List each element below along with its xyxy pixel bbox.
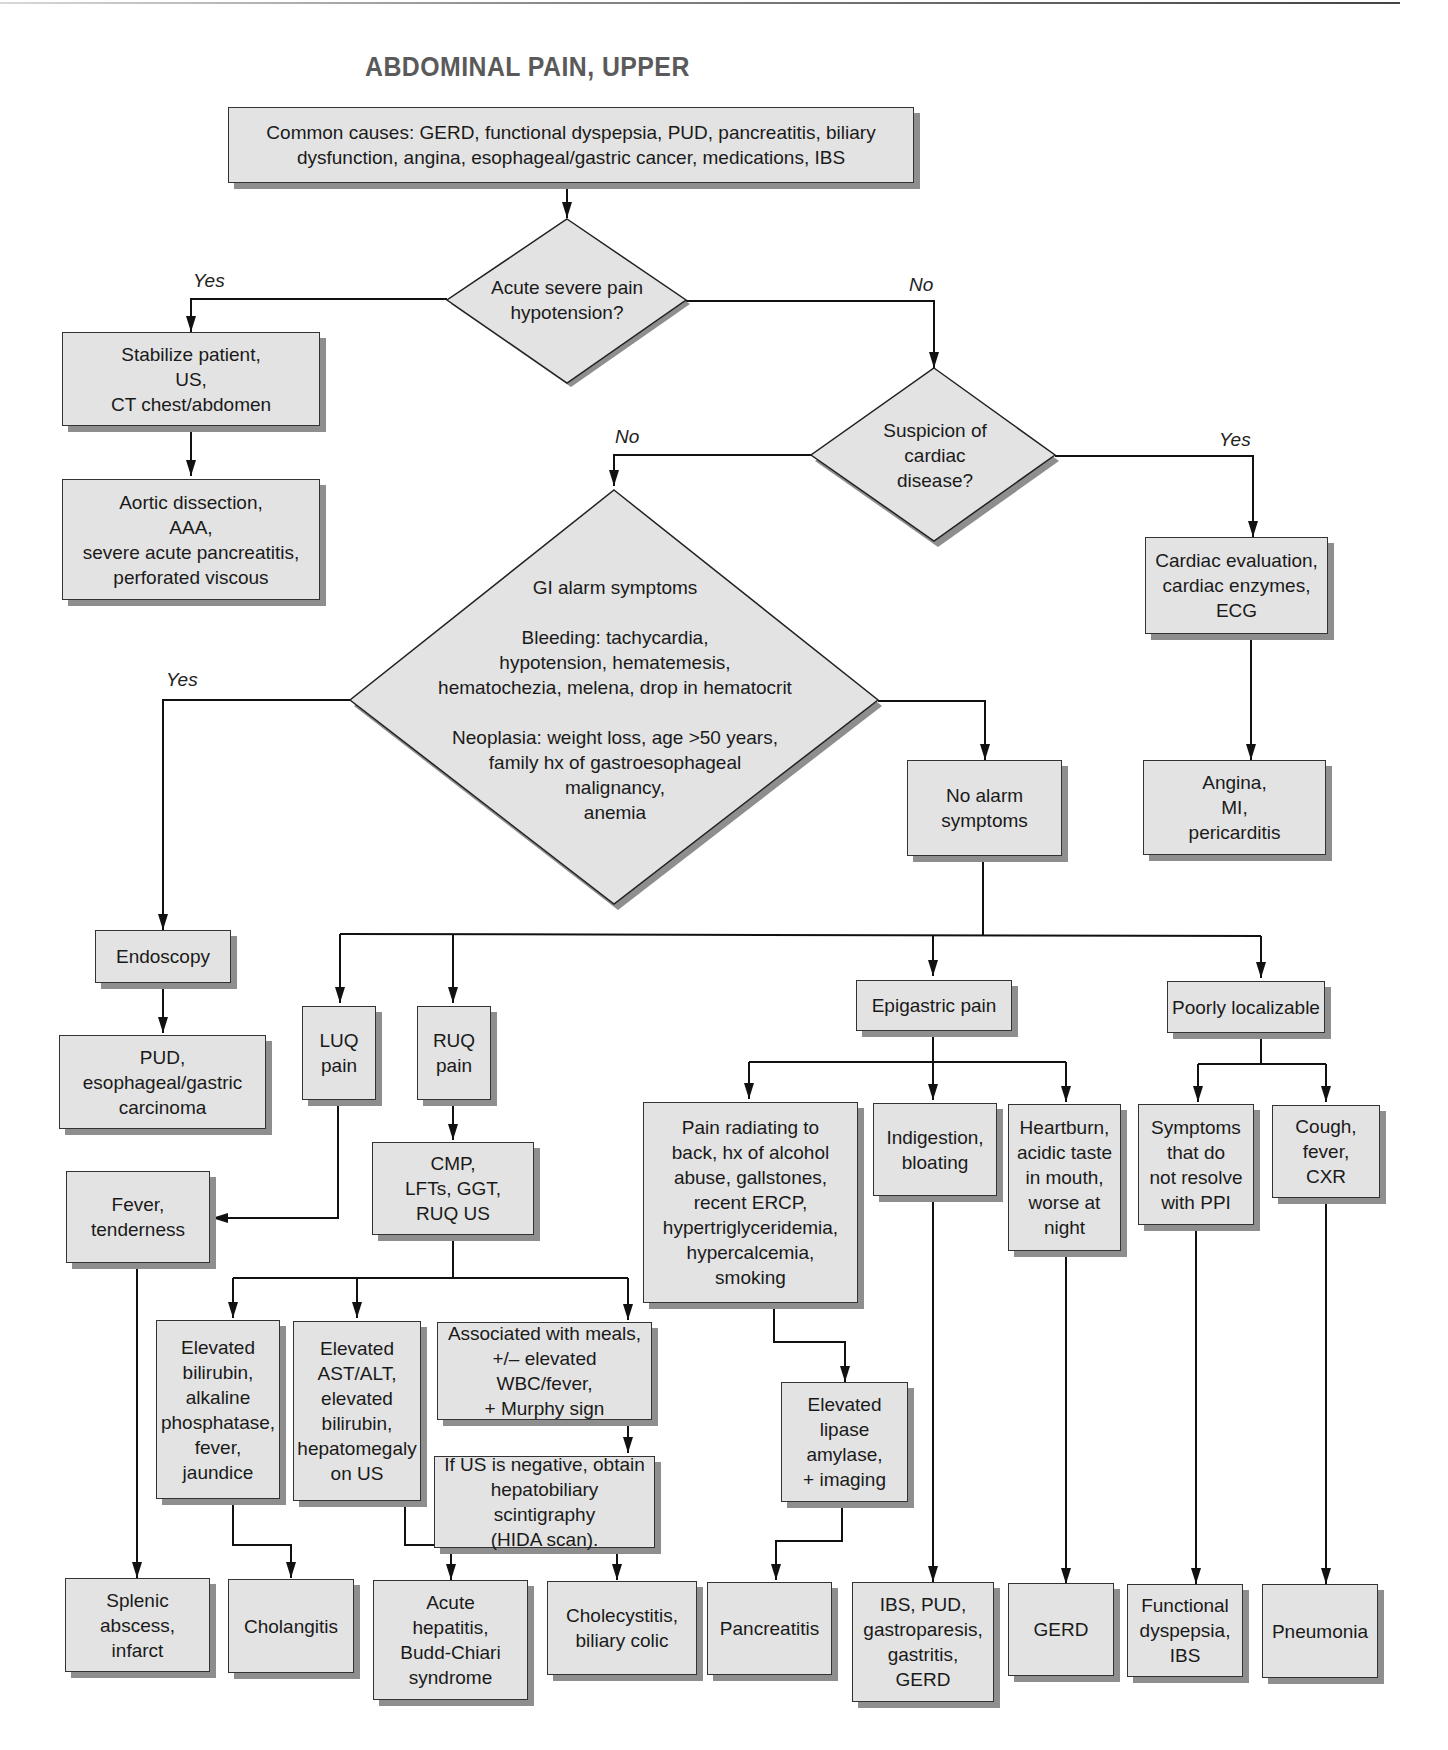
node-associated-with-meals: Associated with meals, +/– elevated WBC/… bbox=[437, 1322, 652, 1420]
node-cholangitis: Cholangitis bbox=[228, 1579, 354, 1673]
node-aortic-dissection: Aortic dissection, AAA, severe acute pan… bbox=[62, 479, 320, 600]
edge-label-acute-yes: Yes bbox=[193, 270, 225, 292]
node-heartburn: Heartburn, acidic taste in mouth, worse … bbox=[1008, 1104, 1121, 1251]
decision-gi-alarm-symptoms: GI alarm symptoms Bleeding: tachycardia,… bbox=[400, 570, 830, 830]
node-common-causes: Common causes: GERD, functional dyspepsi… bbox=[228, 107, 914, 183]
node-cardiac-evaluation: Cardiac evaluation, cardiac enzymes, ECG bbox=[1145, 537, 1328, 634]
node-elevated-bilirubin: Elevated bilirubin, alkaline phosphatase… bbox=[156, 1320, 280, 1499]
node-ruq-pain: RUQ pain bbox=[417, 1006, 491, 1100]
node-poorly-localizable: Poorly localizable bbox=[1167, 981, 1325, 1033]
node-no-alarm-symptoms: No alarm symptoms bbox=[907, 760, 1062, 856]
decision-suspicion-cardiac: Suspicion of cardiac disease? bbox=[840, 415, 1030, 495]
edge-label-acute-no: No bbox=[909, 274, 933, 296]
node-elevated-lipase: Elevated lipase amylase, + imaging bbox=[781, 1382, 908, 1502]
node-symptoms-ppi: Symptoms that do not resolve with PPI bbox=[1138, 1104, 1254, 1225]
edge-label-cardiac-yes: Yes bbox=[1219, 429, 1251, 451]
edge-label-cardiac-no: No bbox=[615, 426, 639, 448]
node-elevated-ast-alt: Elevated AST/ALT, elevated bilirubin, he… bbox=[293, 1321, 421, 1501]
node-ibs-pud-gastroparesis: IBS, PUD, gastroparesis, gastritis, GERD bbox=[852, 1582, 994, 1702]
node-stabilize-patient: Stabilize patient, US, CT chest/abdomen bbox=[62, 332, 320, 426]
node-gerd: GERD bbox=[1008, 1583, 1114, 1676]
node-epigastric-pain: Epigastric pain bbox=[856, 980, 1012, 1031]
node-cough-fever-cxr: Cough, fever, CXR bbox=[1272, 1105, 1380, 1198]
node-splenic-abscess: Splenic abscess, infarct bbox=[65, 1578, 210, 1672]
node-pain-radiating: Pain radiating to back, hx of alcohol ab… bbox=[643, 1102, 858, 1303]
node-endoscopy: Endoscopy bbox=[95, 930, 231, 983]
edge-label-alarm-yes: Yes bbox=[166, 669, 198, 691]
node-hida-scan: If US is negative, obtain hepatobiliary … bbox=[434, 1456, 655, 1548]
node-angina-mi: Angina, MI, pericarditis bbox=[1143, 760, 1326, 855]
node-functional-dyspepsia: Functional dyspepsia, IBS bbox=[1127, 1584, 1243, 1677]
node-pud-carcinoma: PUD, esophageal/gastric carcinoma bbox=[59, 1035, 266, 1129]
decision-acute-severe-pain: Acute severe pain hypotension? bbox=[467, 265, 667, 335]
node-indigestion-bloating: Indigestion, bloating bbox=[873, 1103, 997, 1196]
node-fever-tenderness: Fever, tenderness bbox=[66, 1171, 210, 1263]
node-cmp-lfts: CMP, LFTs, GGT, RUQ US bbox=[372, 1142, 534, 1235]
node-pancreatitis: Pancreatitis bbox=[707, 1582, 832, 1675]
node-pneumonia: Pneumonia bbox=[1262, 1584, 1378, 1678]
node-acute-hepatitis: Acute hepatitis, Budd-Chiari syndrome bbox=[373, 1580, 528, 1700]
node-cholecystitis: Cholecystitis, biliary colic bbox=[547, 1581, 697, 1675]
node-luq-pain: LUQ pain bbox=[302, 1006, 376, 1100]
